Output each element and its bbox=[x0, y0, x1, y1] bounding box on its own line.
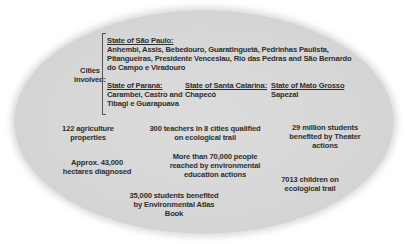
parana-heading: State of Paraná: bbox=[107, 81, 183, 90]
stat-line: Book bbox=[122, 209, 226, 218]
sao-paulo-line2: Pitangueiras, Presidente Venceslau, Rio … bbox=[107, 54, 351, 63]
stat-agriculture-properties: 122 agriculture properties bbox=[48, 124, 128, 142]
stat-line: on ecological trail bbox=[140, 133, 270, 142]
stat-line: Approx. 43,000 bbox=[52, 158, 142, 167]
mato-grosso-line1: Sapezal bbox=[271, 90, 344, 99]
sao-paulo-line1: Anhembi, Assis, Bebedouro, Guaratinguetá… bbox=[107, 45, 351, 54]
mato-grosso-heading: State of Mato Grosso bbox=[271, 81, 344, 90]
sao-paulo-heading: State of São Paulo: bbox=[107, 36, 351, 45]
stat-line: benefited by Theater bbox=[275, 132, 375, 141]
stat-line: 29 million students bbox=[275, 123, 375, 132]
stat-line: 122 agriculture bbox=[48, 124, 128, 133]
santa-catarina-block: State of Santa Catarina: Chapecó bbox=[185, 81, 267, 99]
stat-line: actions bbox=[275, 141, 375, 150]
cities-bracket bbox=[102, 33, 106, 115]
stat-line: reached by environmental bbox=[160, 161, 270, 170]
stat-hectares-diagnosed: Approx. 43,000 hectares diagnosed bbox=[52, 158, 142, 176]
stat-people-reached: More than 70,000 people reached by envir… bbox=[160, 152, 270, 179]
santa-catarina-line1: Chapecó bbox=[185, 90, 267, 99]
parana-line1: Carambeí, Castro and bbox=[107, 90, 183, 99]
stat-line: 300 teachers in 8 cities qualified bbox=[140, 124, 270, 133]
parana-line2: Tibagi e Guarapuava bbox=[107, 99, 183, 108]
mato-grosso-block: State of Mato Grosso Sapezal bbox=[271, 81, 344, 99]
stat-line: hectares diagnosed bbox=[52, 167, 142, 176]
stat-teachers-qualified: 300 teachers in 8 cities qualified on ec… bbox=[140, 124, 270, 142]
stat-line: 35,000 students benefited bbox=[122, 191, 226, 200]
parana-block: State of Paraná: Carambeí, Castro and Ti… bbox=[107, 81, 183, 108]
santa-catarina-heading: State of Santa Catarina: bbox=[185, 81, 267, 90]
stat-line: properties bbox=[48, 133, 128, 142]
stat-atlas-book: 35,000 students benefited by Environment… bbox=[122, 191, 226, 218]
stat-line: 7013 children on bbox=[270, 175, 350, 184]
stat-line: education actions bbox=[160, 170, 270, 179]
stat-children-trail: 7013 children on ecological trail bbox=[270, 175, 350, 193]
stat-line: by Environmental Atlas bbox=[122, 200, 226, 209]
sao-paulo-block: State of São Paulo: Anhembi, Assis, Bebe… bbox=[107, 36, 351, 72]
stat-line: ecological trail bbox=[270, 184, 350, 193]
sao-paulo-line3: do Campo e Viradouro bbox=[107, 63, 351, 72]
stat-line: More than 70,000 people bbox=[160, 152, 270, 161]
stat-theater-students: 29 million students benefited by Theater… bbox=[275, 123, 375, 150]
